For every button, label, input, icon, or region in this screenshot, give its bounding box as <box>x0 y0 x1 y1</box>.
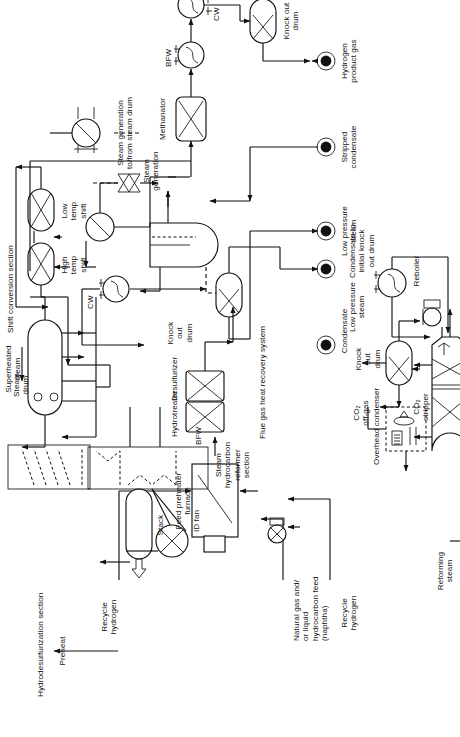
diagram-canvas: Hydrodesulfurization section Shift conve… <box>0 0 460 737</box>
label-bfw-flue-gas: BFW <box>194 427 203 445</box>
label-knock-out-drum-product: Knock out drum <box>282 3 301 40</box>
label-stack: Stack <box>156 515 165 536</box>
label-cw-product: CW <box>212 7 221 21</box>
label-steam-generation: Steam generation <box>142 151 161 190</box>
diagram-linework <box>0 0 460 737</box>
label-flue-gas-heat-recovery: Flue gas heat recovery system <box>258 326 267 439</box>
label-high-temp-shift: High temp shift <box>60 256 88 274</box>
label-stripped-condensate: Stripped condensate <box>340 126 359 169</box>
label-desulfurizer: Desulfurizer <box>170 357 179 401</box>
label-steam-reformer-section: Steam hydrocarbon reformer section <box>214 442 252 488</box>
label-hydrogen-product-gas: Hydrogen product gas <box>340 39 359 82</box>
label-methanator: Methanator <box>158 98 167 140</box>
label-low-pressure-steam-reboiler: Low pressure steam <box>348 282 367 332</box>
label-preheat: Preheat <box>58 636 67 665</box>
process-flow-diagram-figure: Hydrodesulfurization section Shift conve… <box>0 0 460 737</box>
label-shift-conversion-section: Shift conversion section <box>6 245 15 333</box>
label-cw-mid: CW <box>86 295 95 309</box>
label-bfw-methanator: BFW <box>164 49 173 67</box>
label-knock-out-drum-co2: Knock out drum <box>354 348 382 371</box>
label-knock-out-drum-mid: Knock out drum <box>166 322 194 345</box>
label-id-fan: ID fan <box>192 510 201 532</box>
label-co2-off-gas: CO₂ off-gas <box>352 400 371 425</box>
label-natural-gas-feed: Natural gas and/ or liquid hydrocarbon f… <box>292 576 330 641</box>
label-co2-stripper: CO₂ stripper <box>412 393 431 421</box>
label-steam-generation-drum: Steam generation to/from steam drum <box>116 97 135 169</box>
label-steam-drum: Steam drum <box>12 373 31 397</box>
label-recycle-hydrogen-upper: Recycle hydrogen <box>100 600 119 635</box>
label-low-temp-shift: Low temp shift <box>60 202 88 220</box>
label-condensate-to-initial-drum: Condensate to initial knock out drum <box>348 224 376 278</box>
label-hydrodesulfurization-section: Hydrodesulfurization section <box>36 593 45 697</box>
label-recycle-hydrogen-lower: Recycle hydrogen <box>340 596 359 631</box>
label-reboiler: Reboiler <box>412 256 421 287</box>
label-feed-preheater-furnace: Feed preheater furnace <box>174 473 193 530</box>
label-overhead-condenser: Overhead condenser <box>372 388 381 465</box>
label-reforming-steam: Reforming steam <box>436 552 455 590</box>
